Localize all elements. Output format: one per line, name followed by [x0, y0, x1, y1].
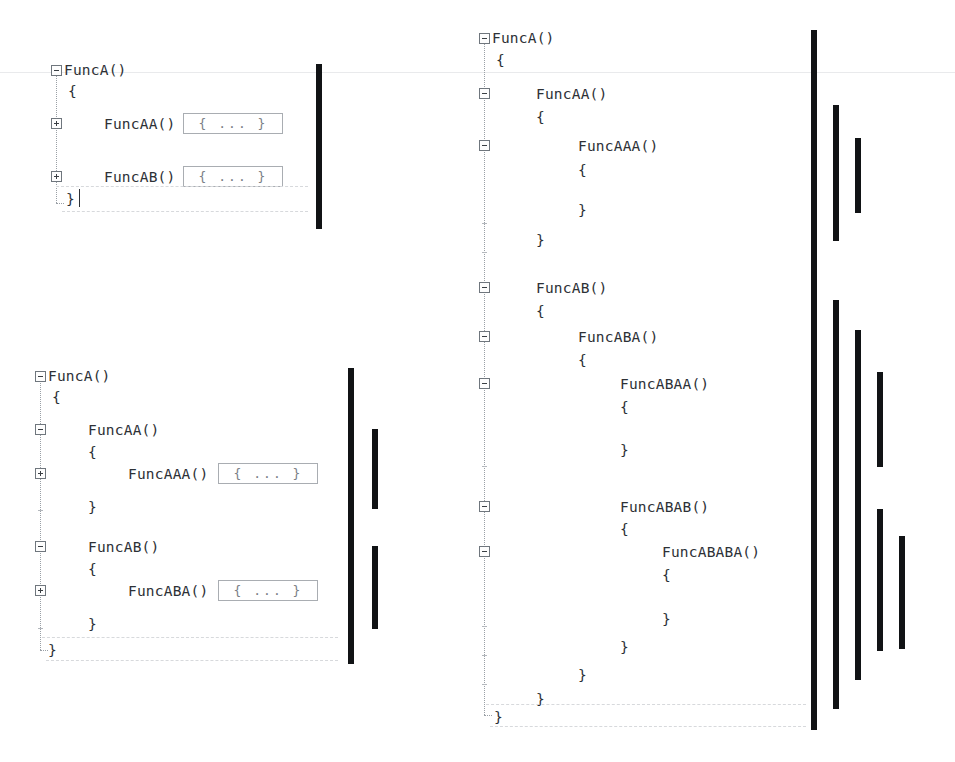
- code-line-funcababa[interactable]: FuncABABA(): [662, 545, 760, 560]
- fold-toggle-funca[interactable]: [479, 33, 490, 44]
- code-line-brace-close[interactable]: }: [662, 612, 671, 627]
- code-line-brace-open[interactable]: {: [620, 522, 629, 537]
- depth-bar-level-2-funcab: [833, 300, 839, 709]
- code-line-brace-open[interactable]: {: [496, 53, 505, 68]
- fold-toggle-funcababa[interactable]: [479, 546, 490, 557]
- depth-bar-level-1: [811, 30, 817, 730]
- fold-region-rule: [490, 726, 806, 727]
- fold-toggle-funcab[interactable]: [479, 282, 490, 293]
- depth-bar-level-5-funcababa: [899, 536, 905, 649]
- code-line-brace-close[interactable]: }: [620, 443, 629, 458]
- code-line-brace-close[interactable]: }: [578, 203, 587, 218]
- code-line-brace-open[interactable]: {: [536, 304, 545, 319]
- fold-tree-tick: [482, 655, 487, 656]
- fold-toggle-funcaba[interactable]: [479, 331, 490, 342]
- fold-toggle-funcabab[interactable]: [479, 501, 490, 512]
- depth-bar-level-3-funcaba: [855, 330, 861, 680]
- fold-tree-tick: [482, 252, 487, 253]
- code-line-funca[interactable]: FuncA(): [492, 31, 555, 46]
- code-line-funcabaa[interactable]: FuncABAA(): [620, 377, 709, 392]
- fold-tree-tick: [482, 466, 487, 467]
- code-line-brace-close[interactable]: }: [620, 640, 629, 655]
- code-line-funcaba[interactable]: FuncABA(): [578, 330, 658, 345]
- fold-region-rule: [486, 704, 806, 705]
- code-line-funcabab[interactable]: FuncABAB(): [620, 500, 709, 515]
- illustration-canvas: FuncA() { FuncAA() FuncAB() } { ... } { …: [0, 0, 955, 762]
- code-line-brace-close[interactable]: }: [536, 233, 545, 248]
- depth-bar-level-4-funcabaa: [877, 372, 883, 467]
- code-line-brace-open[interactable]: {: [620, 400, 629, 415]
- panel-right: FuncA() { FuncAA() { FuncAAA() { } } Fun…: [0, 0, 955, 762]
- code-line-brace-open[interactable]: {: [578, 353, 587, 368]
- depth-bar-level-2-funcaa: [833, 105, 839, 241]
- fold-tree-tick: [482, 223, 487, 224]
- fold-toggle-funcaa[interactable]: [479, 88, 490, 99]
- code-line-funcab[interactable]: FuncAB(): [536, 281, 607, 296]
- depth-bar-level-3-funcaaa: [855, 138, 861, 213]
- code-line-brace-close[interactable]: }: [578, 668, 587, 683]
- code-line-funcaa[interactable]: FuncAA(): [536, 87, 607, 102]
- code-line-brace-open[interactable]: {: [536, 110, 545, 125]
- fold-toggle-funcabaa[interactable]: [479, 378, 490, 389]
- code-line-funcaaa[interactable]: FuncAAA(): [578, 139, 658, 154]
- code-line-brace-open[interactable]: {: [662, 568, 671, 583]
- code-line-brace-open[interactable]: {: [578, 163, 587, 178]
- fold-tree-tick: [482, 626, 487, 627]
- depth-bar-level-4-funcabab: [877, 509, 883, 651]
- fold-tree-elbow: [484, 715, 492, 716]
- fold-toggle-funcaaa[interactable]: [479, 140, 490, 151]
- code-line-brace-close[interactable]: }: [494, 710, 503, 725]
- fold-tree-tick: [482, 684, 487, 685]
